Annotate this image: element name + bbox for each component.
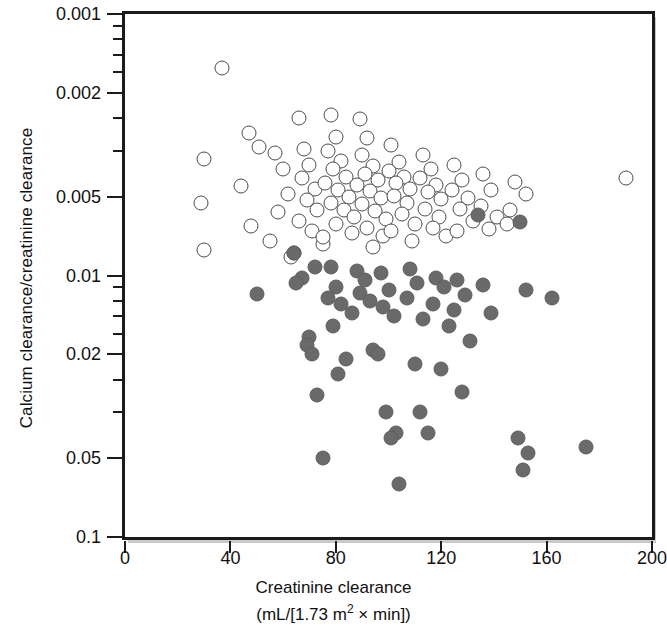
data-point-filled [384,430,399,445]
data-point-filled [331,367,346,382]
data-point-filled [515,463,530,478]
data-point-open [197,151,212,166]
data-point-filled [455,384,470,399]
data-point-filled [402,261,417,276]
x-axis-unit-post: × min]) [354,605,411,624]
data-point-filled [476,277,491,292]
y-tick-label: 0.02 [66,344,101,365]
data-point-filled [315,451,330,466]
data-point-filled [410,275,425,290]
x-axis-title-line2: (mL/[1.73 m2 × min]) [0,602,667,625]
data-point-open [315,230,330,245]
data-point-open [215,61,230,76]
data-point-filled [510,430,525,445]
x-axis-unit-superscript: 2 [347,602,354,616]
data-point-filled [386,309,401,324]
data-point-open [384,138,399,153]
data-point-filled [249,286,264,301]
data-point-filled [378,405,393,420]
data-point-filled [381,283,396,298]
data-point-open [447,157,462,172]
data-point-open [297,141,312,156]
data-point-open [244,218,259,233]
data-point-open [476,166,491,181]
x-axis-unit-pre: (mL/[1.73 m [256,605,347,624]
x-tick-label: 120 [426,548,456,569]
data-point-filled [392,476,407,491]
data-point-open [413,170,428,185]
data-point-open [194,195,209,210]
data-point-open [323,108,338,123]
x-tick-label: 0 [120,548,130,569]
data-point-filled [544,291,559,306]
data-point-open [352,112,367,127]
data-point-open [450,223,465,238]
data-point-open [233,178,248,193]
data-point-open [276,162,291,177]
data-point-filled [307,259,322,274]
data-point-filled [373,266,388,281]
x-axis-title-line1: Creatinine clearance [0,578,667,598]
data-point-filled [413,405,428,420]
data-point-filled [447,302,462,317]
data-point-open [241,126,256,141]
data-point-open [252,140,267,155]
data-point-open [365,240,380,255]
data-point-open [270,204,285,219]
data-point-open [384,223,399,238]
data-point-filled [305,347,320,362]
data-point-open [444,183,459,198]
data-point-filled [323,259,338,274]
data-point-open [281,186,296,201]
data-point-open [360,220,375,235]
y-tick-label: 0.05 [66,448,101,469]
data-point-open [452,201,467,216]
data-point-filled [286,245,301,260]
data-point-filled [310,387,325,402]
data-point-filled [399,291,414,306]
data-point-open [405,234,420,249]
data-point-open [197,243,212,258]
data-point-filled [518,283,533,298]
data-point-open [291,111,306,126]
data-point-filled [339,351,354,366]
data-point-filled [484,305,499,320]
data-point-filled [370,347,385,362]
x-tick-label: 80 [326,548,346,569]
data-point-filled [521,445,536,460]
data-point-open [407,216,422,231]
data-point-open [328,129,343,144]
y-tick-label: 0.1 [76,527,101,548]
data-point-open [347,209,362,224]
data-point-filled [289,275,304,290]
data-point-open [268,145,283,160]
scatter-plot-figure: Calcium clearance/creatinine clearance 0… [0,0,667,632]
y-tick-label: 0.01 [66,265,101,286]
data-point-filled [579,440,594,455]
data-point-open [328,216,343,231]
data-point-filled [434,361,449,376]
data-point-filled [415,312,430,327]
data-point-filled [442,319,457,334]
y-tick-label: 0.001 [56,4,101,25]
data-point-open [262,234,277,249]
data-point-open [320,143,335,158]
data-point-filled [457,288,472,303]
data-point-open [518,186,533,201]
data-point-open [344,225,359,240]
y-tick-label: 0.005 [56,186,101,207]
data-point-open [481,222,496,237]
data-point-open [394,206,409,221]
x-tick-label: 40 [220,548,240,569]
y-tick-label: 0.002 [56,82,101,103]
data-point-open [302,157,317,172]
data-point-open [618,171,633,186]
data-point-filled [421,425,436,440]
data-point-open [294,171,309,186]
data-point-filled [463,334,478,349]
data-point-open [415,147,430,162]
x-tick-label: 160 [532,548,562,569]
data-point-open [484,183,499,198]
y-axis-labels: 0.10.050.020.010.0050.0020.001 [0,0,101,632]
data-point-filled [344,305,359,320]
